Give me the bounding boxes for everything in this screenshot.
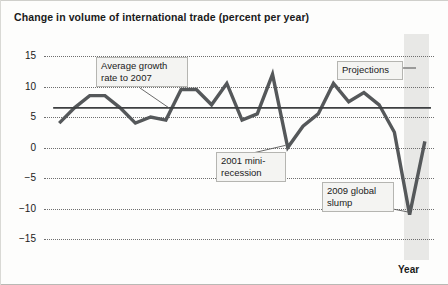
x-axis-title: Year xyxy=(398,264,419,275)
annotation-2009-slump: 2009 global slump xyxy=(322,182,394,212)
annotation-2001-recession: 2001 mini- recession xyxy=(216,152,286,182)
page-frame-left xyxy=(0,0,1,285)
page-frame-top xyxy=(0,0,448,1)
chart-figure: Change in volume of international trade … xyxy=(0,0,448,285)
gridline--15 xyxy=(44,239,434,240)
y-tick-label: 15 xyxy=(6,50,36,61)
y-tick-label: 5 xyxy=(6,111,36,122)
chart-title: Change in volume of international trade … xyxy=(14,11,309,23)
y-tick-label: −15 xyxy=(6,233,36,244)
leader-average-growth xyxy=(140,88,169,108)
y-tick-label: −10 xyxy=(6,203,36,214)
annotation-projections: Projections xyxy=(337,61,403,80)
y-tick-label: −5 xyxy=(6,172,36,183)
annotation-average-growth: Average growth rate to 2007 xyxy=(96,57,188,87)
y-tick-label: 10 xyxy=(6,81,36,92)
y-tick-label: 0 xyxy=(6,142,36,153)
